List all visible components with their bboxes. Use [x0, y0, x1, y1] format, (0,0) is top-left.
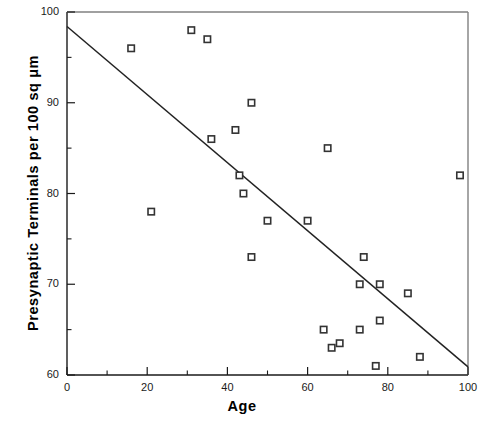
data-point-marker — [320, 326, 326, 332]
trendline — [67, 27, 468, 367]
regression-line — [67, 27, 468, 367]
x-tick-label: 20 — [127, 381, 167, 393]
y-tick-label: 60 — [19, 368, 59, 380]
y-tick-label: 70 — [19, 277, 59, 289]
data-point-marker — [417, 354, 423, 360]
x-tick-label: 0 — [47, 381, 87, 393]
scatter-chart-figure: Presynaptic Terminals per 100 sq μm Age … — [0, 0, 484, 431]
data-point-marker — [328, 345, 334, 351]
data-point-marker — [373, 363, 379, 369]
data-point-marker — [236, 172, 242, 178]
x-tick-label: 100 — [448, 381, 484, 393]
data-point-marker — [324, 145, 330, 151]
data-point-marker — [204, 36, 210, 42]
data-points — [128, 27, 463, 369]
data-point-marker — [248, 100, 254, 106]
data-point-marker — [336, 340, 342, 346]
data-point-marker — [232, 127, 238, 133]
data-point-marker — [240, 190, 246, 196]
x-tick-label: 80 — [368, 381, 408, 393]
y-tick-label: 100 — [19, 5, 59, 17]
y-tick-label: 80 — [19, 187, 59, 199]
x-tick-label: 40 — [207, 381, 247, 393]
data-point-marker — [188, 27, 194, 33]
data-point-marker — [128, 45, 134, 51]
data-point-marker — [357, 281, 363, 287]
data-point-marker — [457, 172, 463, 178]
data-point-marker — [304, 218, 310, 224]
data-point-marker — [405, 290, 411, 296]
data-point-marker — [377, 317, 383, 323]
axis-ticks — [67, 12, 468, 375]
data-point-marker — [148, 208, 154, 214]
data-point-marker — [264, 218, 270, 224]
plot-canvas — [0, 0, 484, 431]
data-point-marker — [361, 254, 367, 260]
y-tick-label: 90 — [19, 96, 59, 108]
data-point-marker — [248, 254, 254, 260]
x-tick-label: 60 — [288, 381, 328, 393]
data-point-marker — [208, 136, 214, 142]
data-point-marker — [377, 281, 383, 287]
axes-frame — [67, 12, 468, 375]
data-point-marker — [357, 326, 363, 332]
